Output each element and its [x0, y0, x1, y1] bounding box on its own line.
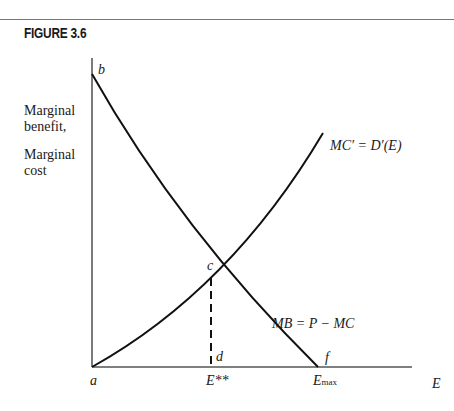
point-a: a	[90, 373, 97, 389]
point-b: b	[98, 62, 105, 78]
point-c: c	[207, 258, 213, 274]
point-d: d	[216, 349, 223, 365]
tick-emax: Emax	[313, 373, 337, 389]
x-axis-label: E	[432, 376, 441, 392]
point-f: f	[325, 350, 329, 366]
mb-label: MB = P − MC	[272, 316, 354, 332]
tick-estar: E**	[206, 373, 229, 389]
chart-plot	[0, 0, 454, 411]
mc-label: MC′ = D′(E)	[330, 138, 402, 154]
